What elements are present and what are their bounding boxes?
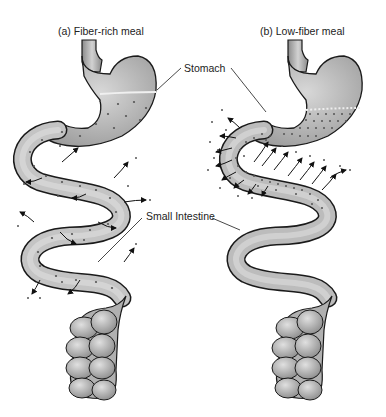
large-intestine-b	[272, 296, 332, 400]
panel-b-illustration	[207, 40, 362, 400]
stomach-leader-a	[157, 68, 181, 90]
digestion-diagram	[0, 0, 386, 417]
panel-a-illustration	[17, 40, 181, 400]
stomach-leader-b	[231, 68, 266, 112]
intestine-leader-b	[212, 218, 240, 230]
large-intestine-a	[66, 296, 126, 400]
